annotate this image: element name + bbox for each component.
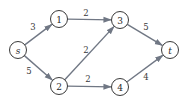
edge-2-to-3 [65,27,114,80]
edge-1-to-3 [68,19,112,20]
edge-weight-label: 2 [83,45,88,55]
flow-network-diagram: 3522254 s1234t [0,0,189,105]
node-4: 4 [112,79,129,96]
node-t: t [162,42,179,59]
node-label: 4 [117,83,123,93]
node-1: 1 [51,11,68,28]
edge-2-to-4 [68,86,112,87]
node-3: 3 [112,12,129,29]
node-label: 2 [56,82,62,92]
node-label: 1 [56,15,62,25]
node-label: s [16,46,21,56]
edge-weight-label: 4 [143,72,148,82]
edge-s-to-1 [25,24,52,44]
edge-weight-label: 2 [83,8,88,18]
edge-weight-label: 3 [30,22,35,32]
node-s: s [10,42,27,59]
node-label: t [168,46,172,56]
edge-weight-label: 5 [143,22,148,32]
edges-layer [24,19,162,87]
edge-weight-label: 2 [85,74,90,84]
edge-weight-label: 5 [26,66,31,76]
node-label: 3 [117,16,123,26]
node-2: 2 [51,78,68,95]
